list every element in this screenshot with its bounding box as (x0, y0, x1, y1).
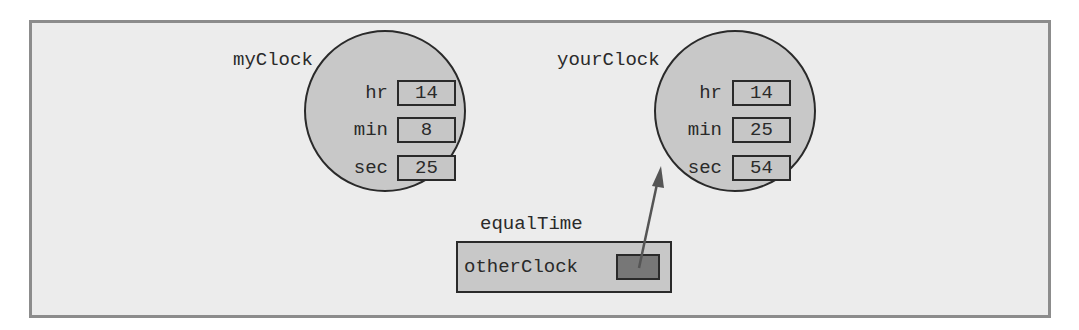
object-label-yourclock: yourClock (557, 50, 660, 70)
field-name-sec: sec (328, 156, 388, 180)
field-value-min: 25 (732, 117, 791, 143)
field-value-sec: 54 (732, 155, 791, 181)
field-value-hr: 14 (732, 80, 791, 106)
field-value-min: 8 (397, 117, 456, 143)
parameter-name: otherClock (464, 257, 578, 277)
field-name-sec: sec (662, 156, 722, 180)
reference-box (616, 254, 660, 280)
field-value-sec: 25 (397, 155, 456, 181)
field-name-hr: hr (662, 81, 722, 105)
field-name-min: min (662, 118, 722, 142)
object-label-myclock: myClock (233, 50, 313, 70)
field-name-hr: hr (328, 81, 388, 105)
field-value-hr: 14 (397, 80, 456, 106)
method-frame-label: equalTime (480, 214, 583, 234)
field-name-min: min (328, 118, 388, 142)
